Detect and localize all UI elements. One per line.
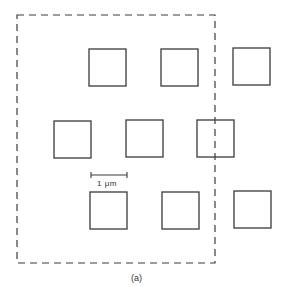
square-array-diagram xyxy=(0,0,288,287)
square-grid xyxy=(54,48,271,229)
square-8 xyxy=(162,192,199,229)
square-6 xyxy=(197,120,234,157)
scale-bar-label: 1 μm xyxy=(97,179,117,188)
square-7 xyxy=(90,192,127,229)
square-9 xyxy=(234,191,271,228)
square-3 xyxy=(233,48,270,85)
square-2 xyxy=(161,49,198,86)
square-4 xyxy=(54,121,91,158)
square-5 xyxy=(126,120,163,157)
figure-caption: (a) xyxy=(131,273,142,283)
scale-bar xyxy=(91,172,127,178)
square-1 xyxy=(89,49,126,86)
dashed-frame xyxy=(17,15,215,263)
